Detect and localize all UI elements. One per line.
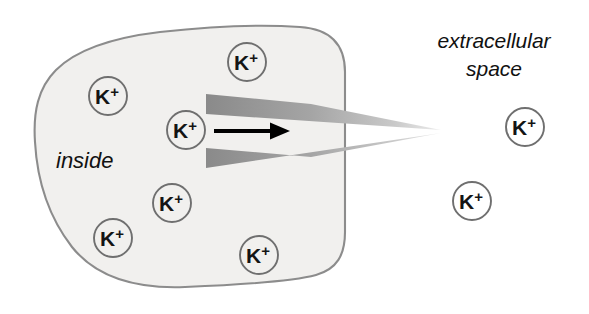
ion-inside: K+ — [94, 219, 132, 257]
ion-inside: K+ — [167, 111, 205, 149]
figure-root: K+K+K+K+K+K+K+K+ inside extracellular sp… — [0, 0, 589, 314]
label-inside: inside — [56, 148, 113, 173]
ion-inside: K+ — [228, 43, 266, 81]
ion-inside: K+ — [240, 236, 278, 274]
ion-extracellular: K+ — [506, 108, 544, 146]
label-extracellular-line2: space — [466, 57, 522, 80]
ion-extracellular: K+ — [453, 182, 491, 220]
ion-inside: K+ — [153, 184, 191, 222]
label-extracellular-line1: extracellular — [437, 29, 551, 52]
potassium-channel-diagram: K+K+K+K+K+K+K+K+ inside extracellular sp… — [0, 0, 589, 314]
ion-inside: K+ — [89, 77, 127, 115]
